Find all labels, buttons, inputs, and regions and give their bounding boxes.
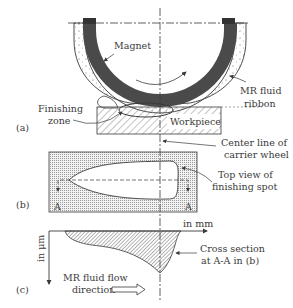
section-label-right: A	[184, 201, 192, 212]
x-axis-unit: in mm	[183, 218, 213, 229]
centerline-leader	[163, 141, 216, 146]
cross-section-profile	[65, 231, 181, 273]
flow-direction-arrow-icon	[112, 284, 145, 295]
panel-a-tag: (a)	[16, 122, 29, 133]
rotation-arrow-icon	[136, 72, 186, 85]
panel-b: A A Top view of finishing spot (b)	[16, 152, 277, 212]
centerline-label-2: carrier wheel	[224, 149, 289, 160]
finishing-zone-label-1: Finishing	[38, 103, 83, 114]
finishing-zone-label-2: zone	[48, 115, 71, 126]
panel-c: in mm in μm Cross section at A-A in (b) …	[16, 218, 265, 295]
mr-fluid-label-2: ribbon	[244, 98, 276, 109]
cross-section-label-2: at A-A in (b)	[201, 255, 259, 266]
section-label-left: A	[53, 201, 61, 212]
mr-fluid-label-1: MR fluid	[240, 85, 281, 96]
magnet-label: Magnet	[114, 40, 151, 51]
mrf-process-diagram: Magnet MR fluid ribbon Finishing zone Wo…	[0, 0, 293, 308]
centerline-label-1: Center line of	[221, 137, 289, 148]
workpiece-label: Workpiece	[170, 116, 221, 127]
cross-section-label-1: Cross section	[200, 243, 265, 254]
panel-c-tag: (c)	[16, 284, 29, 295]
flow-label-1: MR fluid flow	[63, 272, 128, 283]
magnet-leader	[104, 54, 114, 61]
topview-label-1: Top view of	[218, 169, 274, 180]
topview-label-2: finishing spot	[212, 181, 277, 192]
panel-a: Magnet MR fluid ribbon Finishing zone Wo…	[16, 18, 289, 160]
flow-label-2: direction	[72, 284, 115, 295]
y-axis-unit: in μm	[35, 235, 46, 262]
panel-b-tag: (b)	[16, 199, 30, 210]
